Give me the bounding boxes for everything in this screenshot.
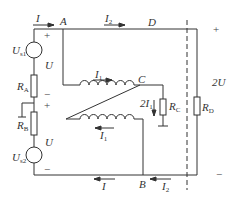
- sign-plus-right: +: [213, 24, 219, 35]
- resistor-rb: [31, 112, 37, 135]
- ground-left: [18, 103, 34, 117]
- source-us2: [26, 147, 42, 163]
- wire-diagonal: [66, 85, 140, 119]
- label-rc: RC: [169, 101, 180, 114]
- label-node-b: B: [139, 179, 146, 190]
- sign-plus-us1: +: [44, 30, 50, 41]
- label-node-c: C: [138, 74, 145, 85]
- label-i1-top: I1: [95, 69, 102, 82]
- resistor-rc: [160, 99, 166, 115]
- label-i1-bottom: I1: [100, 130, 107, 143]
- sign-plus-rb: +: [44, 100, 50, 111]
- wire-coil-b: [134, 119, 143, 175]
- label-i2-bottom: I2: [162, 181, 169, 194]
- label-node-a: A: [60, 16, 67, 27]
- sign-minus-us2: −: [44, 164, 50, 175]
- label-ra: RA: [17, 81, 29, 94]
- source-us1: [26, 42, 42, 58]
- wire-a-coil: [63, 29, 80, 85]
- label-rb: RB: [17, 120, 28, 133]
- label-node-d: D: [148, 17, 156, 28]
- sign-minus-right: −: [216, 169, 222, 180]
- label-us1: Us1: [12, 45, 26, 58]
- resistor-ra: [31, 75, 37, 97]
- label-rd: RD: [202, 102, 214, 115]
- label-i2-top: I2: [105, 13, 112, 26]
- label-i-top: I: [36, 13, 40, 24]
- resistor-rd: [194, 97, 200, 115]
- label-u-lower: U: [45, 137, 53, 148]
- label-u-upper: U: [45, 60, 53, 71]
- label-i-bottom: I: [102, 181, 106, 192]
- label-2i1: 2I1: [140, 98, 153, 111]
- label-2u: 2U: [212, 77, 225, 88]
- label-us2: Us2: [12, 152, 26, 165]
- coil-bottom: [80, 115, 134, 120]
